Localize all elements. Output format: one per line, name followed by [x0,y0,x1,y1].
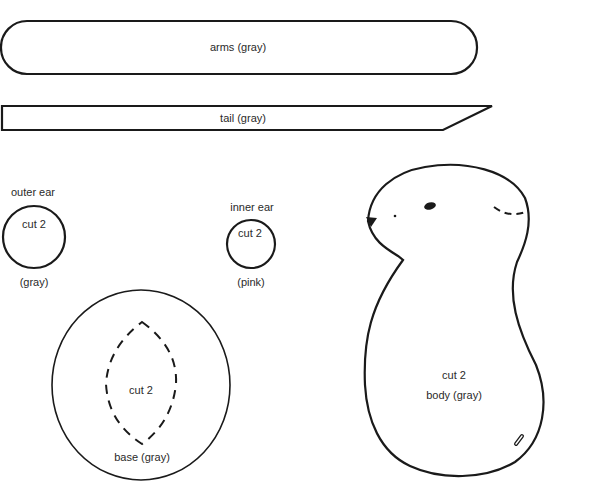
base-piece: cut 2 base (gray) [52,290,230,480]
base-cut: cut 2 [129,384,153,396]
base-dashed-cut-line [106,322,176,444]
tail-piece: tail (gray) [2,106,492,130]
outer-ear-title: outer ear [11,186,55,198]
body-label: body (gray) [426,389,482,401]
body-piece: cut 2 body (gray) [365,165,544,476]
outer-ear-piece: outer ear cut 2 (gray) [3,186,65,288]
inner-ear-piece: inner ear cut 2 (pink) [227,201,275,288]
arms-label: arms (gray) [210,41,266,53]
outer-ear-cut: cut 2 [22,218,46,230]
outer-ear-outline [3,206,65,268]
body-cut: cut 2 [442,369,466,381]
eye-icon [423,201,436,211]
outer-ear-color: (gray) [20,276,49,288]
tail-label: tail (gray) [220,112,266,124]
ear-placement-dashed-line [494,207,528,214]
pattern-sheet: arms (gray) tail (gray) outer ear cut 2 … [0,0,594,485]
whisker-dot [394,215,397,218]
base-label: base (gray) [114,451,170,463]
inner-ear-title: inner ear [230,201,274,213]
inner-ear-color: (pink) [237,276,265,288]
inner-ear-cut: cut 2 [238,227,262,239]
arms-piece: arms (gray) [1,21,477,74]
body-outline [365,165,544,476]
